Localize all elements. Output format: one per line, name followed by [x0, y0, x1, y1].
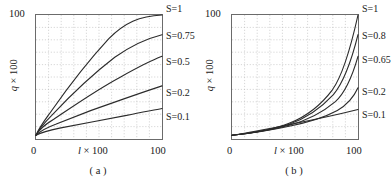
series-label-b-4: S=0.1	[362, 110, 386, 120]
x-axis-title-rest-a: × 100	[81, 145, 108, 156]
y-axis-title-symbol-b: q	[204, 86, 215, 91]
y-axis-title-symbol-a: q	[8, 86, 19, 91]
series-label-a-3: S=0.2	[166, 88, 190, 98]
panel-caption-a: ( a )	[0, 166, 196, 177]
curve-b-s1	[232, 15, 358, 135]
series-label-b-0: S=1	[362, 4, 378, 14]
x-axis-title-b: l × 100	[274, 146, 304, 157]
x-axis-tick-min-a: 0	[31, 146, 36, 157]
curves-a	[36, 15, 162, 139]
series-label-b-2: S=0.65	[362, 55, 391, 65]
y-axis-tick-top-a: 100	[9, 9, 25, 20]
x-axis-title-rest-b: × 100	[277, 145, 304, 156]
curve-b-s02	[232, 88, 358, 135]
series-label-a-1: S=0.75	[166, 31, 195, 41]
y-axis-title-b: q × 100	[205, 45, 216, 105]
panel-b: 100	[196, 0, 392, 191]
figure-root: 100	[0, 0, 392, 191]
y-axis-title-rest-a: × 100	[8, 59, 19, 86]
plot-area-a	[35, 14, 163, 140]
plot-area-b	[231, 14, 359, 140]
y-axis-title-rest-b: × 100	[204, 59, 215, 86]
x-axis-tick-max-a: 100	[150, 146, 166, 157]
y-axis-title-a: q × 100	[9, 45, 20, 105]
x-axis-tick-max-b: 100	[346, 146, 362, 157]
x-axis-tick-min-b: 0	[227, 146, 232, 157]
curve-a-s1	[36, 15, 162, 135]
curve-a-s05	[36, 56, 162, 135]
panel-a: 100	[0, 0, 196, 191]
series-label-a-0: S=1	[166, 4, 182, 14]
series-label-a-4: S=0.1	[166, 112, 190, 122]
series-label-b-1: S=0.8	[362, 31, 386, 41]
curve-a-s02	[36, 86, 162, 135]
series-label-a-2: S=0.5	[166, 57, 190, 67]
x-axis-title-a: l × 100	[78, 146, 108, 157]
series-label-b-3: S=0.2	[362, 87, 386, 97]
panel-caption-b: ( b )	[196, 166, 392, 177]
curves-b	[232, 15, 358, 139]
y-axis-tick-top-b: 100	[205, 9, 221, 20]
